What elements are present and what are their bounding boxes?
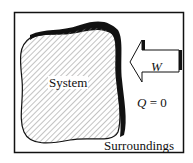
heat-label: Q = 0 — [137, 96, 167, 109]
work-label: W — [151, 60, 162, 73]
system-label: System — [48, 76, 88, 89]
heat-variable: Q — [137, 95, 146, 110]
heat-value: = 0 — [146, 95, 166, 110]
surroundings-label: Surroundings — [104, 139, 174, 152]
